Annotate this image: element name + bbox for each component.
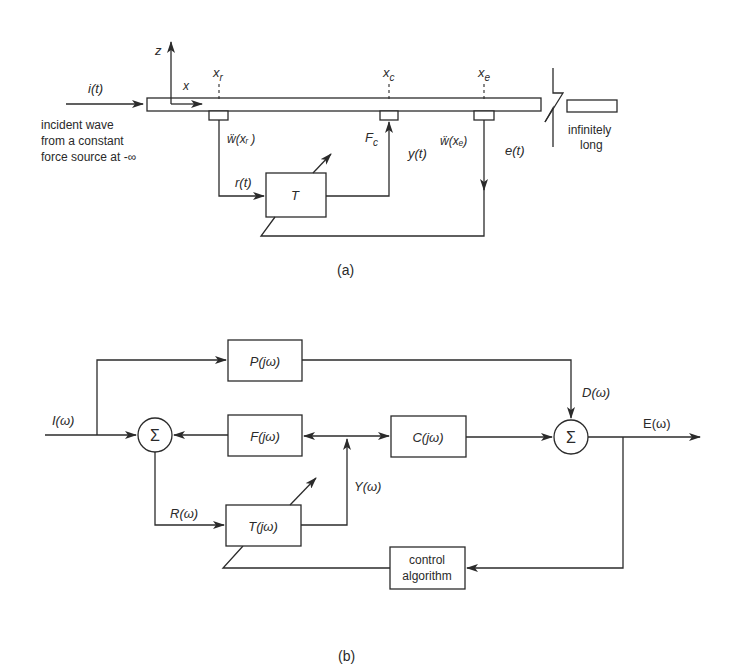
input-label: I(ω) [52,413,74,428]
output-path [326,122,389,196]
secondary-block-label: C(jω) [412,430,443,445]
filter-block-label: T(jω) [248,519,278,534]
reference-label: R(ω) [170,506,198,521]
break-symbol-top [545,68,563,122]
error-label: E(ω) [643,416,670,431]
control-actuator [380,111,398,120]
disturbance-label: D(ω) [582,385,610,400]
incident-note-line2: from a constant [41,134,124,148]
beam-continuation [567,100,617,112]
sum-symbol-1: Σ [150,427,160,444]
output-signal-label: y(t) [407,146,427,161]
panel-a: i(t) incident wave from a constant force… [41,42,617,278]
actuator-label: Fc [365,130,378,148]
error-signal-label: e(t) [505,143,525,158]
beam-note-line1: infinitely [568,123,611,137]
panel-a-caption: (a) [337,262,354,278]
incident-note-line1: incident wave [41,118,114,132]
error-feedback-path [467,437,623,568]
output-label: Y(ω) [354,479,381,494]
control-label-line1: control [409,553,445,567]
control-label-line2: algorithm [402,569,451,583]
x-axis-label: x [182,79,190,93]
reference-signal-label: r(t) [235,175,252,190]
beam-note-line2: long [580,138,603,152]
sensor-r-label: ẅ(xᵣ ) [227,132,255,146]
beam [147,98,541,111]
diagram-canvas: i(t) incident wave from a constant force… [0,0,729,666]
z-axis-label: z [154,43,162,58]
primary-block-label: P(jω) [250,354,280,369]
error-sensor [474,111,494,120]
reference-sensor [209,111,228,120]
incident-note-line3: force source at -∞ [41,150,136,164]
sum-symbol-2: Σ [566,429,576,446]
panel-b: I(ω) P(jω) D(ω) Σ F(jω) C(jω) Σ E(ω) con… [45,340,700,664]
xe-label: xe [477,65,491,83]
filter-block-t-label: T [291,188,300,203]
adaptive-arrow-b [290,478,316,505]
input-signal-label: i(t) [88,81,103,96]
sensor-e-label: ẅ(xₑ) [440,134,467,148]
feedback-block-label: F(jω) [250,429,280,444]
break-symbol-bottom [545,108,553,147]
output-path [301,439,347,525]
xc-label: xc [382,65,395,83]
adaptive-arrow-a [313,154,331,173]
panel-b-caption: (b) [338,648,355,664]
adaptation-path [223,546,390,568]
primary-path-out [302,360,571,418]
xr-label: xr [212,65,224,83]
